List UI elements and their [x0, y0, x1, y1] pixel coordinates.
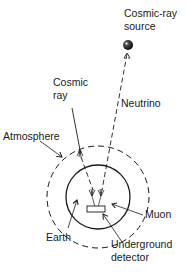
label-underground-detector-2: detector	[111, 251, 149, 263]
muon-track	[92, 196, 95, 207]
muon-shower-right-icon	[98, 189, 104, 196]
earth-leader	[68, 200, 77, 228]
earth-circle	[66, 165, 130, 229]
underground-detector	[87, 206, 105, 212]
cosmic-ray-path	[72, 108, 80, 150]
cosmic-ray-neutrino-diagram: Cosmic-ray source Cosmic ray Neutrino At…	[0, 0, 186, 272]
cosmic-ray-source-icon	[123, 40, 133, 50]
label-neutrino: Neutrino	[121, 97, 161, 109]
label-cosmic-ray-source-2: source	[124, 20, 156, 32]
label-atmosphere: Atmosphere	[3, 130, 60, 142]
label-earth: Earth	[46, 231, 71, 243]
label-cosmic-ray-source: Cosmic-ray	[124, 7, 178, 19]
label-underground-detector: Underground	[111, 238, 172, 250]
atmosphere-leader	[40, 141, 62, 157]
cosmic-ray-shower-icon	[77, 150, 83, 157]
atmospheric-path	[81, 157, 93, 190]
label-cosmic-ray-2: ray	[53, 89, 68, 101]
label-cosmic-ray: Cosmic	[53, 76, 88, 88]
muon-shower-left-icon	[89, 189, 95, 196]
muon-leader	[112, 204, 143, 215]
label-muon: Muon	[145, 208, 171, 220]
muon-track	[98, 196, 101, 207]
